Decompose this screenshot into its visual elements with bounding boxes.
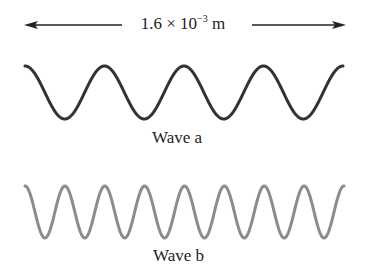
span-exponent: −3 [197,13,208,24]
wave-a-label: Wave a [152,128,202,148]
wavelength-span-label: 1.6 × 10−3 m [0,13,366,34]
wave-b-curve [25,186,344,238]
span-value: 1.6 × 10 [141,14,197,33]
wave-b-label: Wave b [153,246,204,266]
wave-a-curve [25,66,343,119]
span-unit: m [212,14,225,33]
